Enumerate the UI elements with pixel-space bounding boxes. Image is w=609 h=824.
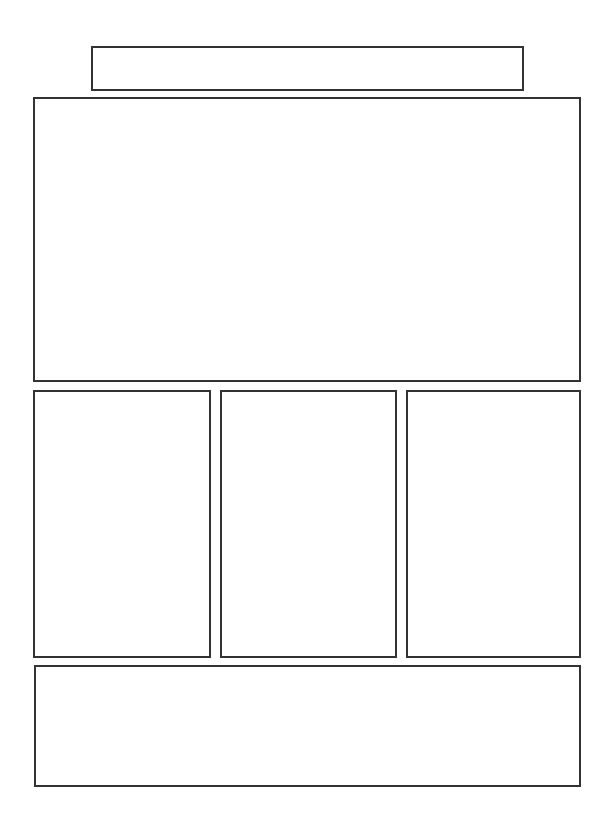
column-placeholder-3: [406, 390, 581, 658]
column-placeholder-1: [33, 390, 211, 658]
hero-placeholder: [33, 97, 581, 382]
column-placeholder-2: [220, 390, 397, 658]
header-placeholder: [91, 46, 524, 91]
footer-placeholder: [34, 665, 581, 787]
